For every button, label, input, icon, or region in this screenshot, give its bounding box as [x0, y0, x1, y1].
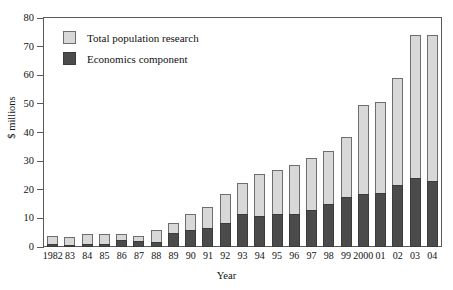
- bar-segment-economics-component[interactable]: [99, 244, 110, 247]
- bar-segment-economics-component[interactable]: [47, 244, 58, 247]
- bar-segment-economics-component[interactable]: [133, 241, 144, 247]
- y-axis-tick-label: 30: [10, 156, 34, 166]
- chart-legend: Total population researchEconomics compo…: [63, 27, 199, 69]
- x-axis-tick-label: 04: [417, 250, 447, 262]
- bar-segment-economics-component[interactable]: [375, 193, 386, 247]
- bar-segment-economics-component[interactable]: [254, 216, 265, 247]
- legend-swatch-econ-icon: [63, 52, 76, 65]
- bar-segment-economics-component[interactable]: [116, 240, 127, 247]
- bar-segment-economics-component[interactable]: [427, 181, 438, 247]
- bar-segment-economics-component[interactable]: [185, 230, 196, 247]
- bar-segment-economics-component[interactable]: [410, 178, 421, 247]
- bar-segment-economics-component[interactable]: [151, 242, 162, 247]
- bar-segment-economics-component[interactable]: [64, 245, 75, 247]
- y-axis-tick-label: 60: [10, 70, 34, 80]
- bar-segment-economics-component[interactable]: [82, 244, 93, 247]
- legend-item-label: Total population research: [87, 32, 199, 44]
- bar-segment-economics-component[interactable]: [323, 204, 334, 247]
- x-axis: 1982838485868788899091929394959697989920…: [0, 250, 453, 266]
- legend-item-label: Economics component: [87, 53, 188, 65]
- bar-segment-economics-component[interactable]: [358, 194, 369, 247]
- bar-segment-economics-component[interactable]: [272, 214, 283, 247]
- bar-segment-economics-component[interactable]: [168, 233, 179, 247]
- legend-swatch-total-icon: [63, 31, 76, 44]
- y-axis-tick-label: 70: [10, 42, 34, 52]
- x-axis-title: Year: [0, 270, 453, 281]
- y-axis-title: $ millions: [6, 83, 17, 153]
- y-axis-tick-label: 10: [10, 213, 34, 223]
- bar-segment-economics-component[interactable]: [392, 185, 403, 247]
- y-axis-tick-label: 80: [10, 13, 34, 23]
- bar-segment-economics-component[interactable]: [202, 228, 213, 247]
- population-research-funding-chart: 01020304050607080 $ millions 19828384858…: [0, 0, 453, 290]
- bar-segment-economics-component[interactable]: [220, 223, 231, 247]
- legend-item[interactable]: Total population research: [63, 27, 199, 48]
- bar-segment-economics-component[interactable]: [306, 210, 317, 247]
- legend-item[interactable]: Economics component: [63, 48, 199, 69]
- bar-segment-economics-component[interactable]: [289, 214, 300, 247]
- bar-segment-economics-component[interactable]: [237, 214, 248, 247]
- bar-segment-economics-component[interactable]: [341, 197, 352, 247]
- y-axis-tick-label: 20: [10, 185, 34, 195]
